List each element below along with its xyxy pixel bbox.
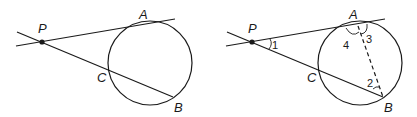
label-a: A bbox=[348, 7, 358, 22]
angle-2-arc bbox=[373, 87, 379, 89]
angle-1-arc bbox=[269, 39, 271, 49]
right-figure: P A C B 1 2 3 4 bbox=[226, 7, 402, 115]
angle-label-1: 1 bbox=[272, 39, 278, 51]
point-p-dot bbox=[39, 39, 44, 44]
angle-label-3: 3 bbox=[366, 33, 372, 45]
label-a: A bbox=[138, 7, 148, 22]
angle-label-2: 2 bbox=[367, 77, 373, 89]
label-p: P bbox=[38, 21, 47, 36]
label-c: C bbox=[307, 70, 317, 85]
circle bbox=[318, 21, 402, 105]
left-figure: P A C B bbox=[16, 7, 192, 115]
diagram-canvas: P A C B P A C B 1 2 3 4 bbox=[0, 0, 417, 117]
label-p: P bbox=[248, 21, 257, 36]
circle bbox=[108, 21, 192, 105]
angle-label-4: 4 bbox=[343, 39, 349, 51]
label-b: B bbox=[384, 100, 393, 115]
angle-4-arc bbox=[346, 28, 359, 34]
label-c: C bbox=[97, 70, 107, 85]
label-b: B bbox=[174, 100, 183, 115]
point-p-dot bbox=[249, 39, 254, 44]
